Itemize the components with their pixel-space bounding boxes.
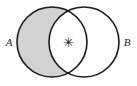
venn-diagram-figure: ✳ A B [0, 0, 137, 86]
set-label-a: A [5, 36, 13, 48]
venn-diagram-canvas: ✳ A B [0, 0, 137, 86]
set-label-b: B [124, 36, 131, 48]
asterisk-icon: ✳ [63, 35, 74, 50]
